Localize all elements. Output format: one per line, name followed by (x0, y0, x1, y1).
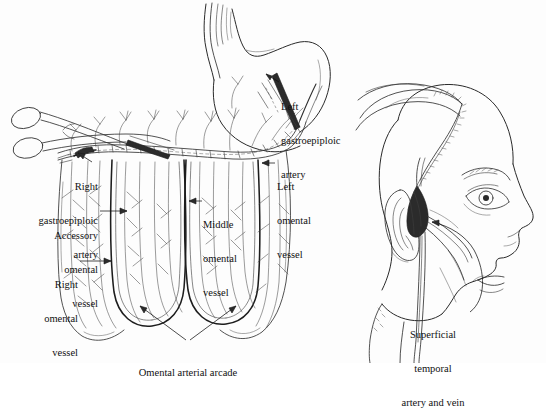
label-line: Middle (203, 219, 237, 230)
label-line: Right (6, 181, 98, 192)
label-line: Superficial (378, 329, 488, 340)
label-line: vessel (203, 287, 237, 298)
eye (464, 185, 509, 216)
scalp-flap (356, 84, 466, 210)
label-line: Omental arterial arcade (124, 367, 252, 378)
label-line: temporal (378, 363, 488, 374)
eyebrow (462, 168, 510, 180)
esophagus-cut-edge (204, 3, 232, 80)
label-line: Left (277, 181, 311, 192)
label-superficial-temporal-artery-and-vein: Superficial temporal artery and vein (378, 306, 488, 412)
label-line: Right (14, 279, 78, 290)
label-line: vessel (14, 347, 78, 358)
label-left-omental-vessel: Left omental vessel (277, 158, 311, 283)
label-line: artery and vein (378, 397, 488, 408)
label-line: Accessory (14, 230, 98, 241)
gastric-branches (70, 76, 303, 151)
label-line: gastroepiploic (281, 135, 340, 146)
lips (472, 276, 504, 293)
label-line: omental (14, 313, 78, 324)
omental-lobes (111, 160, 260, 326)
label-line: vessel (277, 249, 311, 260)
label-line: Left (281, 101, 340, 112)
arcade-rungs (70, 122, 300, 159)
label-line: omental (203, 253, 237, 264)
label-middle-omental-vessel: Middle omental vessel (203, 196, 237, 321)
label-omental-arterial-arcade: Omental arterial arcade (124, 344, 252, 401)
label-right-omental-vessel: Right omental vessel (14, 256, 78, 381)
label-line: omental (277, 215, 311, 226)
